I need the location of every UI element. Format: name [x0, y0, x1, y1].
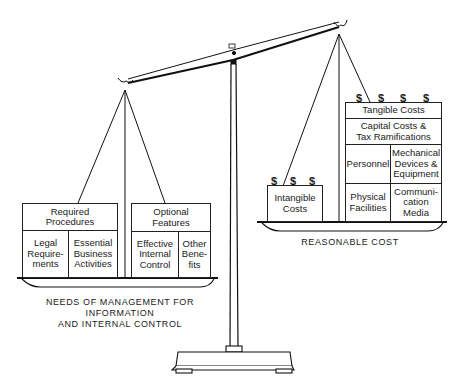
- capital-costs-cell: Capital Costs & Tax Ramifications: [346, 119, 441, 145]
- scale-beam: [118, 20, 347, 83]
- optional-features-header: Optional Features: [132, 204, 210, 232]
- right-pan-caption: REASONABLE COST: [290, 237, 410, 248]
- required-procedures-group: Required Procedures Legal Require- ments…: [22, 203, 118, 278]
- required-procedures-header: Required Procedures: [23, 204, 117, 231]
- optional-features-group: Optional Features Effective Internal Con…: [131, 203, 211, 278]
- other-benefits-cell: Other Bene- fits: [179, 232, 210, 277]
- personnel-cell: Personnel: [346, 145, 391, 184]
- left-pan-caption: NEEDS OF MANAGEMENT FOR INFORMATION AND …: [20, 297, 220, 330]
- physical-facilities-cell: Physical Facilities: [346, 184, 391, 221]
- tangible-costs-header: Tangible Costs: [346, 103, 441, 119]
- right-pan: [257, 222, 447, 231]
- tangible-costs-group: Tangible Costs Capital Costs & Tax Ramif…: [345, 102, 442, 222]
- left-pan: [17, 278, 218, 287]
- effective-internal-control-cell: Effective Internal Control: [132, 232, 179, 277]
- intangible-costs-label: Intangible Costs: [268, 186, 322, 221]
- essential-business-activities-cell: Essential Business Activities: [69, 231, 117, 277]
- mechanical-devices-cell: Mechanical Devices & Equipment: [391, 145, 441, 184]
- legal-requirements-cell: Legal Require- ments: [23, 231, 69, 277]
- scale-post: [230, 60, 238, 348]
- communication-media-cell: Communi- cation Media: [391, 184, 441, 221]
- scale-base: [172, 346, 294, 373]
- intangible-costs-box: Intangible Costs: [267, 185, 323, 222]
